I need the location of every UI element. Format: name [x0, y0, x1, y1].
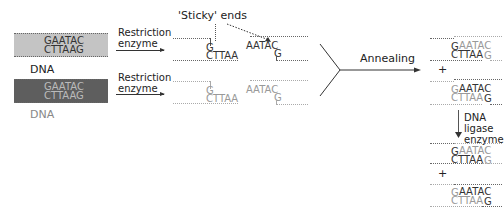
bottom-strand: CTTAA — [451, 50, 483, 59]
label-line: Restriction — [118, 72, 171, 83]
annealing-arrow-icon — [318, 40, 423, 100]
bottom-g: G — [484, 94, 492, 103]
annealing-label: Annealing — [360, 53, 415, 64]
arrow-right-icon — [116, 94, 164, 95]
restriction-enzyme-label-1: Restriction enzyme — [118, 27, 171, 49]
dna-molecule-light: GAATAC CTTAAG — [14, 33, 108, 57]
bottom-strand: CTTAA — [451, 196, 483, 205]
dna-sequence: GAATAC CTTAAG — [44, 36, 84, 54]
sticky-ends-label: 'Sticky' ends — [178, 10, 247, 21]
dna-label-1: DNA — [30, 64, 54, 75]
plus-sign: + — [438, 168, 447, 179]
plus-sign: + — [438, 64, 447, 75]
dna-ligase-label: DNA ligase enzyme — [464, 112, 504, 145]
label-line: Restriction — [118, 27, 171, 38]
dna-molecule-dark: GAATAC CTTAAG — [14, 79, 108, 103]
bottom-g: G — [484, 197, 492, 206]
arrow-right-icon — [116, 50, 164, 51]
bottom-strand: CTTAAG — [44, 45, 84, 54]
dna-label-2: DNA — [30, 109, 54, 120]
dna-sequence: GAATAC CTTAAG — [44, 82, 84, 100]
pointer-line — [215, 24, 216, 41]
arrow-head — [455, 132, 462, 138]
bottom-strand: CTTAA — [206, 51, 238, 60]
restriction-enzyme-label-2: Restriction enzyme — [118, 72, 171, 94]
arrow-down-icon — [458, 110, 459, 134]
bottom-strand: CTTAA — [451, 93, 483, 102]
bottom-strand: CTTAAG — [44, 91, 84, 100]
bottom-strand: CTTAA — [206, 94, 238, 103]
bottom-g: G — [484, 51, 492, 60]
label-line: DNA ligase — [464, 112, 504, 134]
